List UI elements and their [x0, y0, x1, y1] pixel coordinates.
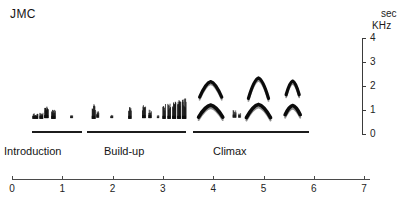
climax-call-upper-band — [248, 78, 268, 101]
time-axis-line — [12, 179, 370, 180]
climax-call-upper-band — [286, 81, 299, 97]
time-tick — [264, 176, 265, 180]
spectrogram-pulse — [233, 110, 237, 118]
time-tick-label: 1 — [60, 184, 66, 194]
figure-title: JMC — [10, 7, 36, 21]
time-tick-label: 5 — [261, 184, 267, 194]
time-tick — [213, 176, 214, 180]
climax-call-lower-band — [199, 105, 223, 120]
frequency-tick-label: 2 — [370, 81, 376, 91]
frequency-tick-label: 1 — [370, 105, 376, 115]
spectrogram-pulse — [128, 107, 132, 119]
phase-label: Build-up — [104, 145, 144, 157]
time-axis: 01234567 — [0, 179, 409, 207]
spectrogram-pulse — [92, 104, 96, 119]
spectrogram-pulse — [32, 113, 38, 118]
time-tick — [364, 176, 365, 180]
spectrogram-pulse — [238, 113, 241, 118]
time-tick — [163, 176, 164, 180]
frequency-tick — [362, 38, 366, 39]
spectrogram-pulse — [110, 115, 113, 118]
time-tick — [113, 176, 114, 180]
time-tick-label: 4 — [210, 184, 216, 194]
frequency-axis: 43210 — [362, 36, 408, 138]
frequency-tick — [362, 110, 366, 111]
phase-bracket — [193, 131, 309, 133]
time-tick — [12, 176, 13, 180]
frequency-tick — [362, 86, 366, 87]
time-axis-unit-label: sec — [381, 8, 397, 19]
spectrogram-pulse — [157, 115, 160, 118]
spectrogram-pulse — [44, 107, 49, 118]
phase-bracket — [32, 131, 82, 133]
frequency-tick-label: 0 — [370, 129, 376, 139]
climax-call-lower-band — [285, 106, 300, 118]
spectrogram-pulse — [172, 102, 176, 119]
spectrogram-pulse — [148, 110, 152, 118]
phase-bracket — [87, 131, 185, 133]
spectrogram-figure: JMC KHz 43210 01234567 sec IntroductionB… — [0, 0, 409, 208]
spectrogram-pulse — [96, 111, 99, 117]
frequency-axis-unit-label: KHz — [372, 20, 392, 31]
frequency-tick — [362, 62, 366, 63]
time-tick-label: 2 — [110, 184, 116, 194]
climax-call-lower-band — [246, 104, 270, 120]
spectrogram-pulse — [70, 115, 73, 118]
time-tick — [62, 176, 63, 180]
time-tick-label: 3 — [160, 184, 166, 194]
spectrogram-pulse — [51, 110, 56, 119]
time-tick — [314, 176, 315, 180]
frequency-tick-label: 4 — [370, 33, 376, 43]
time-tick-label: 0 — [9, 184, 15, 194]
spectrogram-pulse — [177, 100, 181, 119]
time-tick-label: 7 — [361, 184, 367, 194]
frequency-tick-label: 3 — [370, 57, 376, 67]
spectrogram-pulse — [167, 104, 171, 119]
frequency-tick — [362, 134, 366, 135]
spectrogram-pulse — [142, 105, 146, 118]
phase-label: Climax — [213, 145, 247, 157]
spectrogram-pulse — [39, 113, 43, 119]
climax-call-upper-band — [200, 82, 222, 100]
spectrogram-pulse — [182, 99, 187, 119]
time-tick-label: 6 — [311, 184, 317, 194]
spectrogram-pulse — [162, 104, 166, 119]
phase-label: Introduction — [4, 145, 61, 157]
